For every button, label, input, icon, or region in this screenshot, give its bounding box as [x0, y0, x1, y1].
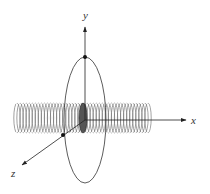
coil-cross-section — [79, 103, 87, 133]
y-axis-label: y — [82, 9, 88, 21]
solenoid-diagram: y x z — [0, 0, 210, 194]
point-top-of-loop — [83, 55, 87, 59]
z-axis-label: z — [10, 167, 16, 179]
x-axis-label: x — [190, 114, 196, 126]
point-loop-z-intersection — [61, 133, 65, 137]
